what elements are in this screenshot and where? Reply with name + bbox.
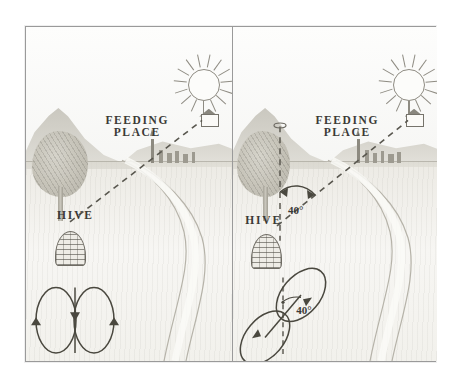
scene-left: FEEDING PLACE HIVE	[26, 27, 232, 361]
figure-root: FEEDING PLACE HIVE	[0, 0, 460, 383]
dance-angle-label: 40°	[296, 304, 311, 316]
arrow-down-left	[31, 317, 41, 325]
arrow-lower-left	[252, 329, 261, 338]
illustration-frame: FEEDING PLACE HIVE	[25, 26, 436, 362]
dance-diagram-tilted	[233, 27, 437, 361]
panel-right: 40° FEEDING PLACE HIVE	[233, 27, 437, 361]
dance-diagram-straight	[26, 27, 232, 361]
dance-angle-vertex	[281, 301, 284, 304]
arrow-up-center	[70, 312, 80, 321]
panel-left: FEEDING PLACE HIVE	[26, 27, 232, 361]
scene-right: 40° FEEDING PLACE HIVE	[233, 27, 437, 361]
arrow-down-right	[109, 317, 119, 325]
